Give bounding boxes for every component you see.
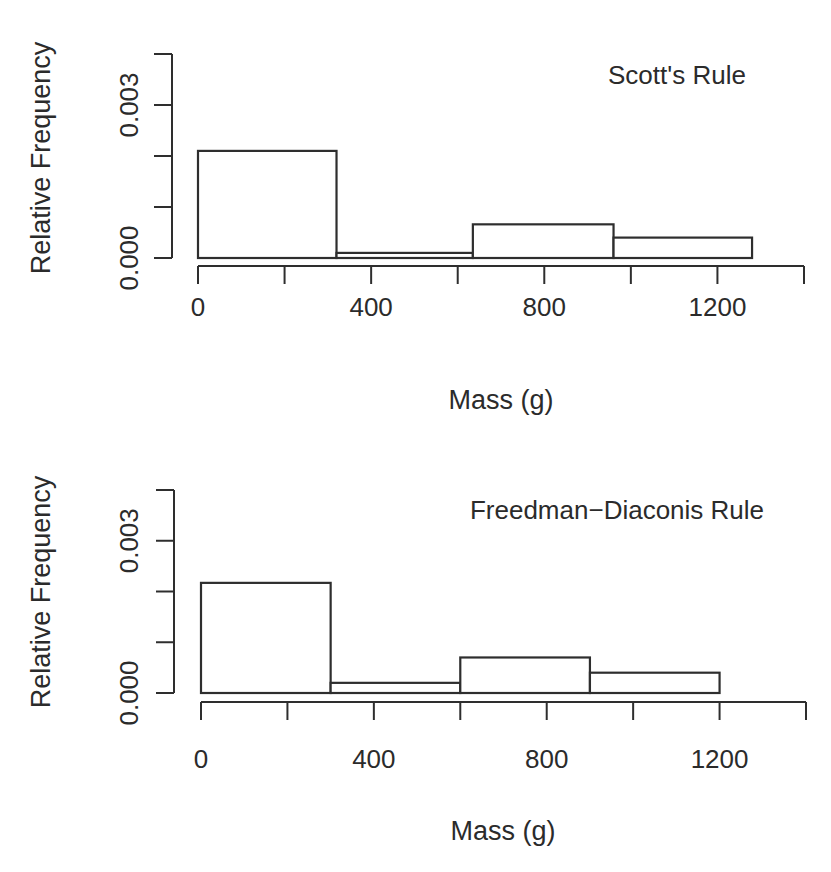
- histogram-bar: [614, 238, 753, 258]
- y-axis-title: Relative Frequency: [26, 41, 56, 274]
- x-axis: 04008001200: [194, 702, 806, 774]
- histogram-bar: [460, 657, 590, 693]
- x-axis-title: Mass (g): [450, 816, 555, 846]
- histogram-figure: 0.0000.003 04008001200 Scott's Rule Mass…: [0, 0, 831, 872]
- scotts-rule-panel: 0.0000.003 04008001200 Scott's Rule Mass…: [26, 41, 804, 415]
- histogram-bar: [198, 151, 337, 258]
- y-tick-label: 0.000: [114, 225, 144, 290]
- histogram-bar: [473, 224, 614, 258]
- x-tick-label: 0: [194, 744, 208, 774]
- x-tick-label: 1200: [689, 292, 747, 322]
- x-axis-title: Mass (g): [448, 385, 553, 415]
- histogram-bars: [201, 583, 720, 693]
- x-tick-label: 800: [525, 744, 568, 774]
- y-axis: 0.0000.003: [114, 54, 172, 291]
- histogram-bar: [201, 583, 331, 693]
- x-tick-label: 400: [349, 292, 392, 322]
- histogram-bar: [590, 673, 720, 693]
- y-tick-label: 0.003: [114, 72, 144, 137]
- x-axis: 04008001200: [191, 266, 804, 322]
- x-tick-label: 1200: [691, 744, 749, 774]
- y-tick-label: 0.003: [114, 508, 144, 573]
- y-tick-label: 0.000: [114, 660, 144, 725]
- histogram-bar: [337, 253, 473, 258]
- histogram-bars: [198, 151, 752, 258]
- y-axis: 0.0000.003: [114, 490, 174, 726]
- panel-title: Scott's Rule: [608, 60, 746, 90]
- y-axis-title: Relative Frequency: [26, 475, 56, 708]
- x-tick-label: 0: [191, 292, 205, 322]
- histogram-bar: [331, 683, 461, 693]
- panel-title: Freedman−Diaconis Rule: [470, 495, 764, 525]
- x-tick-label: 800: [523, 292, 566, 322]
- freedman-diaconis-panel: 0.0000.003 04008001200 Freedman−Diaconis…: [26, 475, 806, 846]
- x-tick-label: 400: [352, 744, 395, 774]
